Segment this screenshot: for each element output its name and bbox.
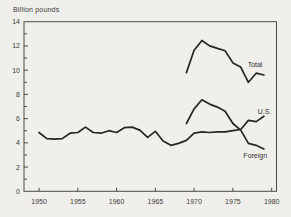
y-axis-tick-label: 10 xyxy=(12,67,20,74)
y-axis-tick-label: 0 xyxy=(16,188,20,195)
x-axis-tick-label: 1965 xyxy=(148,198,164,205)
y-axis-tick-label: 2 xyxy=(16,164,20,171)
series-line-foreign xyxy=(186,100,264,149)
series-label-total: Total xyxy=(248,61,263,68)
x-axis-tick-label: 1950 xyxy=(31,198,47,205)
line-chart-figure: Billion pounds 1412108642019501955196019… xyxy=(0,0,291,217)
x-axis-tick-label: 1980 xyxy=(264,198,280,205)
series-label-us: U.S. xyxy=(258,108,272,115)
y-axis-tick-label: 6 xyxy=(16,115,20,122)
plot-frame xyxy=(24,22,277,192)
y-axis-tick-label: 14 xyxy=(12,18,20,25)
x-axis-tick-label: 1975 xyxy=(225,198,241,205)
y-axis-tick-label: 4 xyxy=(16,139,20,146)
x-axis-tick-label: 1955 xyxy=(70,198,86,205)
y-axis-tick-label: 12 xyxy=(12,42,20,49)
series-label-foreign: Foreign xyxy=(243,152,267,160)
x-axis-tick-label: 1970 xyxy=(186,198,202,205)
x-axis-tick-label: 1960 xyxy=(109,198,125,205)
y-axis-tick-label: 8 xyxy=(16,91,20,98)
chart-canvas: 141210864201950195519601965197019751980T… xyxy=(0,0,291,217)
